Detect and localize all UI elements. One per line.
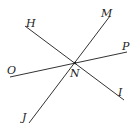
label-h: H bbox=[25, 17, 36, 30]
diagram-svg: H M P O N I J bbox=[0, 0, 136, 131]
line-OP bbox=[10, 52, 127, 77]
label-n: N bbox=[69, 67, 80, 80]
label-p: P bbox=[121, 40, 130, 53]
label-i: I bbox=[117, 86, 123, 99]
label-m: M bbox=[100, 7, 113, 20]
intersection-point-n bbox=[74, 62, 77, 65]
label-o: O bbox=[7, 64, 16, 77]
diagram-canvas: H M P O N I J bbox=[0, 0, 136, 131]
label-j: J bbox=[20, 111, 27, 124]
